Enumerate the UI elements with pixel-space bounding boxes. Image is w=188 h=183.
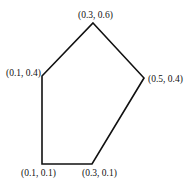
pentagon-shape xyxy=(42,23,144,164)
vertex-label-top: (0.3, 0.6) xyxy=(78,10,113,21)
vertex-label-left: (0.1, 0.4) xyxy=(6,68,41,79)
vertex-label-bottom-right: (0.3, 0.1) xyxy=(82,168,117,179)
vertex-label-bottom-left: (0.1, 0.1) xyxy=(21,168,56,179)
pentagon-diagram: (0.3, 0.6) (0.5, 0.4) (0.3, 0.1) (0.1, 0… xyxy=(0,0,188,183)
vertex-label-right: (0.5, 0.4) xyxy=(148,74,183,85)
